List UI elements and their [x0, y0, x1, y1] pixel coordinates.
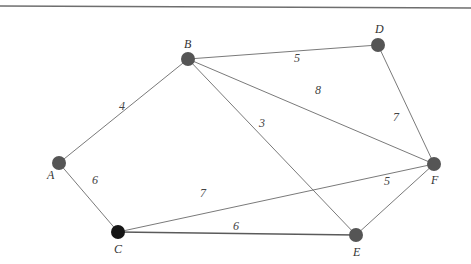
node-label-f: F	[430, 173, 439, 187]
edge-a-c	[59, 163, 118, 232]
edge-weight-d-f: 7	[393, 110, 400, 124]
edge-d-f	[378, 45, 434, 164]
node-label-b: B	[184, 37, 192, 51]
graph-diagram: 458376765 ABCDEF	[0, 0, 471, 264]
node-label-a: A	[46, 168, 55, 182]
edge-b-e	[188, 59, 356, 235]
edge-e-f	[356, 164, 434, 235]
node-e	[349, 228, 363, 242]
node-label-d: D	[374, 22, 384, 36]
edges-layer	[59, 45, 434, 235]
edge-weight-b-e: 3	[258, 116, 265, 130]
edge-b-d	[188, 45, 378, 59]
edge-weight-b-f: 8	[315, 83, 321, 97]
edge-weight-e-f: 5	[384, 174, 390, 188]
node-b	[181, 52, 195, 66]
weights-layer: 458376765	[92, 51, 400, 233]
node-c	[111, 225, 125, 239]
edge-weight-c-f: 7	[200, 186, 207, 200]
node-f	[427, 157, 441, 171]
edge-weight-a-c: 6	[92, 173, 98, 187]
edge-weight-a-b: 4	[119, 99, 125, 113]
top-rule	[0, 6, 471, 8]
node-label-e: E	[352, 245, 361, 259]
node-label-c: C	[114, 242, 123, 256]
node-d	[371, 38, 385, 52]
edge-weight-c-e: 6	[233, 219, 239, 233]
edge-weight-b-d: 5	[294, 51, 300, 65]
